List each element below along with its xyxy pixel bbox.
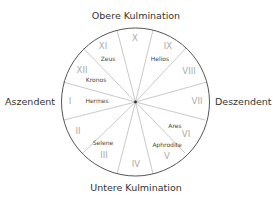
house-wheel-diagram: IHermesIIIIISeleneIVVAphroditeVIAresVIIV… (0, 0, 273, 200)
house-numeral: VIII (182, 66, 195, 76)
label-aszendent: Aszendent (5, 96, 55, 107)
house-ix: IXHelios (151, 41, 173, 62)
planet-label: Ares (168, 122, 181, 129)
house-ii: II (75, 126, 80, 136)
house-divider-line (136, 30, 154, 102)
house-xi: XIZeus (99, 41, 116, 62)
house-numeral: IV (132, 159, 141, 169)
house-numeral: X (132, 33, 138, 43)
house-numeral: III (100, 150, 108, 160)
house-viii: VIII (182, 66, 195, 76)
planet-label: Hermes (85, 97, 108, 104)
house-numeral: VI (182, 129, 190, 139)
house-numeral: XI (99, 41, 107, 51)
planet-label: Aphrodite (152, 141, 182, 149)
house-numeral: I (69, 96, 72, 106)
house-numeral: XII (77, 65, 88, 75)
house-iv: IV (132, 159, 141, 169)
house-vi: VIAres (168, 122, 190, 139)
house-numeral: V (164, 151, 170, 161)
house-numeral: II (75, 126, 80, 136)
house-numeral: IX (164, 41, 173, 51)
house-i: IHermes (69, 96, 109, 106)
house-iii: IIISelene (93, 139, 114, 160)
planet-label: Zeus (101, 55, 116, 62)
center-point (134, 101, 137, 104)
label-deszendent: Deszendent (215, 96, 272, 107)
house-x: X (132, 33, 138, 43)
house-vii: VII (192, 96, 203, 106)
house-numeral: VII (192, 96, 203, 106)
planet-label: Selene (93, 139, 114, 146)
house-divider-line (64, 102, 136, 120)
label-untere-kulmination: Untere Kulmination (90, 182, 181, 193)
planet-label: Helios (151, 55, 169, 62)
planet-label: Kronos (86, 76, 107, 83)
label-obere-kulmination: Obere Kulmination (92, 10, 180, 21)
house-v: VAphrodite (152, 141, 182, 161)
